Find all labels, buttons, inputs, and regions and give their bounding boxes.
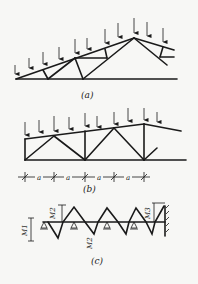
caption-c: (c) — [91, 256, 104, 266]
dim-label-a-1: a — [37, 174, 41, 182]
moment-label-m3: M3 — [144, 207, 152, 220]
moment-label-m1: M1 — [21, 224, 29, 237]
panel-b-truss — [25, 124, 186, 160]
moment-label-m2: M2 — [49, 207, 57, 220]
truss-figure: (a) — [0, 0, 198, 284]
dim-label-a-2: a — [66, 174, 70, 182]
caption-a: (a) — [81, 90, 94, 100]
panel-a-truss — [16, 38, 177, 79]
dim-label-a-4: a — [126, 174, 130, 182]
caption-b: (b) — [83, 184, 96, 194]
dim-label-a-3: a — [97, 174, 101, 182]
panel-a-loads — [15, 18, 163, 74]
moment-label-m2-lower: M2 — [86, 237, 94, 250]
